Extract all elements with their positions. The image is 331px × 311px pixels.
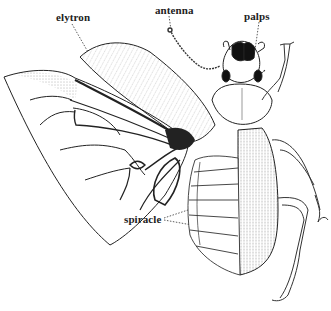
head — [222, 41, 265, 82]
right-elytron — [238, 128, 278, 275]
label-antenna: antenna — [155, 4, 194, 16]
antenna — [168, 28, 220, 69]
beetle-illustration — [0, 0, 331, 311]
beetle-diagram: elytron antenna palps spiracle — [0, 0, 331, 311]
label-spiracle: spiracle — [124, 213, 161, 225]
label-palps: palps — [244, 10, 270, 22]
label-elytron: elytron — [56, 11, 90, 23]
abdomen — [188, 156, 240, 275]
